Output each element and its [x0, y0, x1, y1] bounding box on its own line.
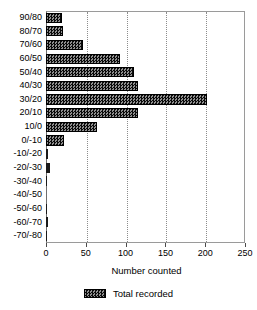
bar	[46, 67, 134, 77]
bar	[46, 149, 48, 159]
x-axis-tick-label: 100	[106, 248, 146, 258]
bar-row	[46, 38, 245, 52]
y-axis-tick-label: 20/10	[0, 106, 42, 120]
y-axis-tick-label: 60/50	[0, 52, 42, 66]
chart-legend: Total recorded	[0, 288, 257, 299]
bar	[46, 231, 47, 241]
bar-row	[46, 52, 245, 66]
y-axis-tick-label: 10/0	[0, 120, 42, 134]
x-axis-title: Number counted	[0, 265, 257, 276]
bar	[46, 176, 47, 186]
bar	[46, 135, 64, 145]
y-axis-tick-label: 50/40	[0, 66, 42, 80]
x-axis-tick-mark	[245, 243, 246, 247]
y-axis-tick-label: -30/-40	[0, 175, 42, 189]
x-axis-tick-mark	[126, 243, 127, 247]
y-axis-tick-label: -10/-20	[0, 147, 42, 161]
bar	[46, 26, 63, 36]
bar	[46, 217, 48, 227]
y-axis-tick-label: 40/30	[0, 79, 42, 93]
bar-row	[46, 11, 245, 25]
legend-item: Total recorded	[84, 288, 173, 299]
bar-row	[46, 161, 245, 175]
bar-row	[46, 106, 245, 120]
bar	[46, 108, 138, 118]
bar-row	[46, 202, 245, 216]
x-axis-tick-label: 200	[185, 248, 225, 258]
bar-row	[46, 175, 245, 189]
bar-rows	[46, 11, 245, 243]
y-axis-tick-label: -50/-60	[0, 202, 42, 216]
bar-row	[46, 216, 245, 230]
legend-swatch-icon	[84, 289, 106, 298]
x-axis-tick-label: 0	[26, 248, 66, 258]
bar	[46, 204, 47, 214]
bar-row	[46, 188, 245, 202]
bar	[46, 122, 97, 132]
x-axis-tick-label: 50	[66, 248, 106, 258]
y-axis-tick-label: 80/70	[0, 25, 42, 39]
bar-row	[46, 134, 245, 148]
y-axis-tick-label: 0/-10	[0, 134, 42, 148]
x-axis-tick-label: 250	[225, 248, 257, 258]
x-axis-tick-label: 150	[145, 248, 185, 258]
y-axis-tick-label: 30/20	[0, 93, 42, 107]
bar	[46, 13, 62, 23]
x-axis-tick-mark	[205, 243, 206, 247]
y-axis-tick-label: -60/-70	[0, 216, 42, 230]
y-axis-labels: 90/8080/7070/6060/5050/4040/3030/2020/10…	[0, 11, 42, 243]
bar-row	[46, 229, 245, 243]
x-axis-tick-mark	[86, 243, 87, 247]
bar-row	[46, 93, 245, 107]
bar-row	[46, 147, 245, 161]
bar-row	[46, 66, 245, 80]
legend-label: Total recorded	[113, 288, 173, 299]
bar-row	[46, 79, 245, 93]
y-axis-tick-label: -70/-80	[0, 229, 42, 243]
x-axis-title-text: Number counted	[111, 265, 181, 276]
bar-row	[46, 25, 245, 39]
y-axis-tick-label: 90/80	[0, 11, 42, 25]
y-axis-tick-label: -40/-50	[0, 188, 42, 202]
bar	[46, 94, 207, 104]
bar	[46, 81, 138, 91]
y-axis-tick-label: -20/-30	[0, 161, 42, 175]
bar	[46, 54, 120, 64]
y-axis-tick-label: 70/60	[0, 38, 42, 52]
bar	[46, 40, 83, 50]
x-axis-tick-mark	[165, 243, 166, 247]
bar	[46, 163, 50, 173]
bar-chart: 90/8080/7070/6060/5050/4040/3030/2020/10…	[0, 0, 257, 310]
bar-row	[46, 120, 245, 134]
x-axis-tick-mark	[46, 243, 47, 247]
